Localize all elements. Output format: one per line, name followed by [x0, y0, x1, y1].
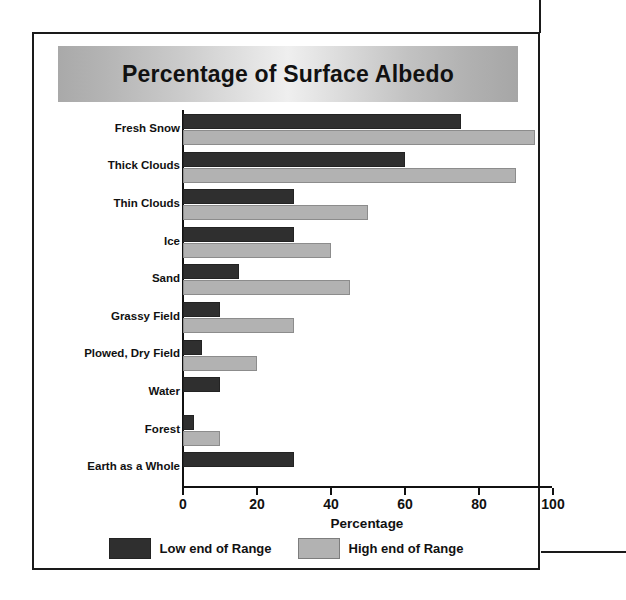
chart-title-banner: Percentage of Surface Albedo [58, 46, 518, 102]
chart-legend: Low end of RangeHigh end of Range [34, 538, 538, 559]
category-label: Plowed, Dry Field [34, 347, 180, 359]
bar-low [183, 302, 220, 317]
bar-high [183, 431, 220, 446]
bar-high [183, 318, 294, 333]
bar-low [183, 452, 294, 467]
category-label: Sand [34, 272, 180, 284]
bar-high [183, 130, 535, 145]
plot-area: Fresh SnowThick CloudsThin CloudsIceSand… [34, 110, 538, 530]
category-label: Ice [34, 235, 180, 247]
x-axis-tick [330, 488, 332, 495]
bar-low [183, 189, 294, 204]
x-axis-title: Percentage [182, 516, 552, 531]
bar-low [183, 227, 294, 242]
bar-high [183, 243, 331, 258]
x-axis-tick [182, 488, 184, 495]
category-axis-labels: Fresh SnowThick CloudsThin CloudsIceSand… [34, 110, 180, 486]
category-label: Thick Clouds [34, 159, 180, 171]
x-axis-tick-label: 100 [541, 496, 564, 512]
x-axis-tick-label: 40 [323, 496, 339, 512]
legend-swatch-low [109, 538, 151, 559]
x-axis-tick [256, 488, 258, 495]
bar-high [183, 356, 257, 371]
bar-low [183, 415, 194, 430]
x-axis-tick-label: 20 [249, 496, 265, 512]
chart-frame: Percentage of Surface Albedo Fresh SnowT… [32, 32, 540, 570]
category-label: Grassy Field [34, 310, 180, 322]
x-axis-line [182, 486, 552, 488]
x-axis-tick-label: 0 [179, 496, 187, 512]
bar-low [183, 114, 461, 129]
bar-low [183, 377, 220, 392]
bar-low [183, 152, 405, 167]
page-title: Percentage of Surface Albedo [122, 61, 454, 88]
category-label: Thin Clouds [34, 197, 180, 209]
x-axis-tick [552, 488, 554, 495]
x-axis-tick [478, 488, 480, 495]
category-label: Earth as a Whole [34, 460, 180, 472]
legend-label: High end of Range [349, 541, 464, 556]
legend-item: Low end of Range [109, 538, 272, 559]
bar-low [183, 264, 239, 279]
bar-high [183, 280, 350, 295]
x-axis-tick-label: 60 [397, 496, 413, 512]
bar-high [183, 205, 368, 220]
bar-plot: 020406080100 Percentage [182, 110, 538, 486]
x-axis-tick [404, 488, 406, 495]
bar-low [183, 340, 202, 355]
bar-high [183, 168, 516, 183]
category-label: Water [34, 385, 180, 397]
page-rule-vertical [539, 0, 541, 33]
figure-page: Percentage of Surface Albedo Fresh SnowT… [0, 0, 626, 600]
category-label: Fresh Snow [34, 122, 180, 134]
page-rule-horizontal [541, 551, 626, 553]
legend-swatch-high [298, 538, 340, 559]
x-axis-tick-label: 80 [471, 496, 487, 512]
category-label: Forest [34, 423, 180, 435]
legend-item: High end of Range [298, 538, 464, 559]
legend-label: Low end of Range [160, 541, 272, 556]
